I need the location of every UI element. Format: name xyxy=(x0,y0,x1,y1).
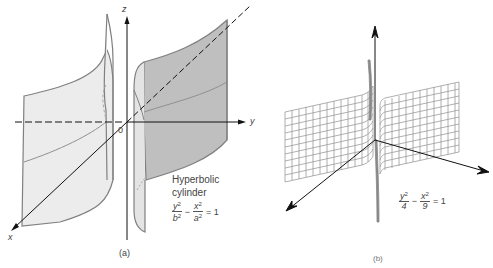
equation-a: y2b2 − x2a2 = 1 xyxy=(172,200,222,223)
x-axis-label: x xyxy=(8,232,13,242)
z-axis-label: z xyxy=(122,4,127,14)
figure-canvas xyxy=(0,0,493,268)
left-mesh xyxy=(285,86,373,182)
caption-a: (a) xyxy=(119,248,130,258)
left-hyperbolic-sheet xyxy=(22,50,113,226)
equation-b: y24 − x29 = 1 xyxy=(399,190,449,211)
title-line1: Hyperbolic xyxy=(172,174,219,185)
y-axis-label: y xyxy=(250,116,255,126)
caption-b: (b) xyxy=(373,254,383,263)
edge-on-sheet-bottom xyxy=(375,140,379,222)
origin-label: 0 xyxy=(118,125,123,135)
edge-on-sheet-top xyxy=(368,60,372,120)
title-line2: cylinder xyxy=(172,187,206,198)
right-hyperbolic-sheet xyxy=(144,20,227,180)
